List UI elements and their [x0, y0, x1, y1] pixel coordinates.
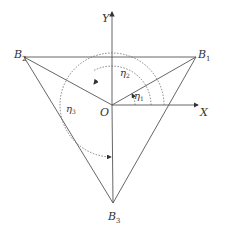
angle-eta2-label: η2: [120, 67, 130, 79]
ray-o-b1: [112, 57, 196, 105]
point-b1-label: B1: [197, 48, 211, 63]
angle-eta3-label: η3: [66, 103, 76, 115]
y-axis-label: Y: [102, 12, 111, 25]
x-axis-label: X: [199, 106, 209, 119]
triangle-diagram: Y X O B1 B2 B3 η1 η2 η3: [0, 0, 226, 236]
origin-label: O: [100, 106, 109, 119]
ray-o-b3: [112, 105, 113, 203]
ray-o-b2: [24, 57, 112, 105]
triangle-b1-b2-b3: [24, 57, 196, 203]
point-b2-label: B2: [13, 48, 27, 63]
point-b3-label: B3: [107, 210, 121, 225]
angle-eta1-label: η1: [134, 90, 144, 102]
arc-eta2-arrow: [94, 80, 97, 84]
